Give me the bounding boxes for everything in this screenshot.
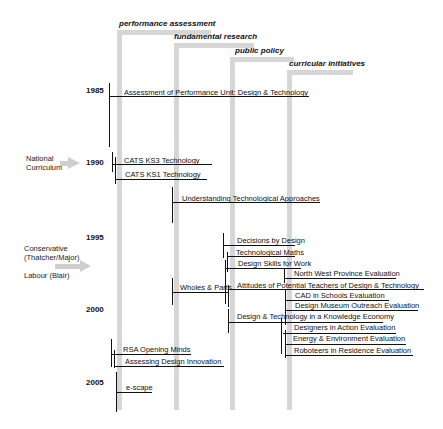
context-conservative-line1: Conservative bbox=[24, 244, 79, 253]
project-label-cats-ks3: CATS KS3 Technology bbox=[124, 156, 200, 165]
year-label-2005: 2005 bbox=[86, 378, 104, 387]
year-label-1990: 1990 bbox=[86, 158, 104, 167]
project-underline-e-scape bbox=[116, 392, 152, 393]
project-underline-roboteers bbox=[285, 355, 413, 356]
project-span-rsa-opening-minds bbox=[111, 339, 112, 367]
project-label-roboteers: Roboteers in Residence Evaluation bbox=[294, 346, 411, 355]
project-label-uta: Understanding Technological Approaches bbox=[182, 194, 320, 203]
project-underline-cats-ks1 bbox=[115, 179, 207, 180]
project-underline-wholes-and-parts bbox=[172, 292, 228, 293]
context-conservative-line2: (Thatcher/Major) bbox=[24, 253, 79, 262]
project-underline-rsa-opening-minds bbox=[111, 354, 191, 355]
project-underline-decisions-by-design bbox=[223, 245, 295, 246]
year-label-2000: 2000 bbox=[86, 305, 104, 314]
context-national-curriculum: National Curriculum bbox=[26, 154, 62, 172]
strand-rail-vertical bbox=[230, 57, 235, 410]
project-span-apu bbox=[109, 83, 110, 147]
project-label-designers-in-action: Designers in Action Evaluation bbox=[294, 323, 395, 332]
context-labour: Labour (Blair) bbox=[24, 271, 69, 280]
strand-title-performance-assessment: performance assessment bbox=[119, 19, 216, 28]
year-label-1985: 1985 bbox=[86, 86, 104, 95]
strand-title-curricular-initiatives: curricular initiatives bbox=[289, 59, 365, 68]
year-label-1995: 1995 bbox=[86, 233, 104, 242]
project-label-cats-ks1: CATS KS1 Technology bbox=[125, 170, 201, 179]
context-national-curriculum-line2: Curriculum bbox=[26, 163, 62, 172]
project-span-designers-in-action bbox=[281, 318, 282, 354]
project-label-design-skills-for-work: Design Skills for Work bbox=[238, 259, 311, 268]
project-underline-assessing-design-innovation bbox=[114, 366, 224, 367]
strand-rail-vertical bbox=[117, 30, 122, 410]
strand-rail-top bbox=[230, 57, 294, 62]
strand-rail-top bbox=[287, 70, 353, 75]
project-span-dt-knowledge-economy bbox=[228, 309, 229, 333]
project-label-decisions-by-design: Decisions by Design bbox=[237, 236, 305, 245]
project-label-north-west-province: North West Province Evaluation bbox=[294, 269, 400, 278]
project-span-cats-ks3 bbox=[112, 152, 113, 172]
project-label-design-museum-outreach: Design Museum Outreach Evaluation bbox=[295, 301, 419, 310]
project-label-assessing-design-innovation: Assessing Design Innovation bbox=[125, 357, 221, 366]
project-label-attitudes: Attitudes of Potential Teachers of Desig… bbox=[237, 281, 419, 290]
project-span-uta bbox=[172, 187, 173, 223]
project-label-dt-knowledge-economy: Design & Technology in a Knowledge Econo… bbox=[237, 312, 394, 321]
context-conservative: Conservative (Thatcher/Major) bbox=[24, 244, 79, 262]
strand-title-public-policy: public policy bbox=[235, 46, 284, 55]
project-label-energy-environment: Energy & Environment Evaluation bbox=[293, 334, 405, 343]
project-label-rsa-opening-minds: RSA Opening Minds bbox=[123, 345, 191, 354]
project-label-e-scape: e-scape bbox=[126, 383, 153, 392]
strand-title-fundamental-research: fundamental research bbox=[174, 32, 257, 41]
context-national-curriculum-line1: National bbox=[26, 154, 62, 163]
project-span-design-skills-for-work bbox=[225, 260, 226, 304]
project-underline-north-west-province bbox=[284, 278, 396, 279]
project-label-wholes-and-parts: Wholes & Parts bbox=[180, 283, 232, 292]
project-underline-design-skills-for-work bbox=[225, 268, 301, 269]
project-label-apu: Assessment of Performance Unit: Design &… bbox=[124, 88, 308, 97]
project-label-technological-maths: Technological Maths bbox=[236, 248, 304, 257]
project-label-cad-in-schools: CAD in Schools Evaluation bbox=[295, 291, 385, 300]
